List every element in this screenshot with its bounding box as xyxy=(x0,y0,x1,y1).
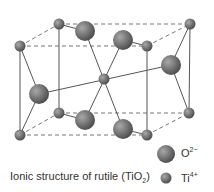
o-atom xyxy=(113,119,133,139)
o-atom xyxy=(161,55,181,75)
rutile-unit-cell-diagram xyxy=(0,0,214,192)
legend-o-icon xyxy=(157,145,175,163)
ti-atom xyxy=(142,41,153,52)
atoms xyxy=(15,19,196,184)
o-atom xyxy=(113,30,133,50)
ti-atom xyxy=(54,108,65,119)
figure-caption: Ionic structure of rutile (TiO2) xyxy=(10,170,150,184)
ti-atom xyxy=(15,41,26,52)
ti-atom xyxy=(185,19,196,30)
legend-oxygen-label: O2− xyxy=(181,146,198,159)
ti-atom-center xyxy=(99,74,110,85)
legend-ti-icon xyxy=(161,173,172,184)
ti-atom xyxy=(184,108,195,119)
legend-titanium-label: Ti4+ xyxy=(181,171,198,184)
o-atom xyxy=(75,110,95,130)
o-atom xyxy=(29,84,49,104)
ti-atom xyxy=(142,130,153,141)
ti-atom xyxy=(15,130,26,141)
ti-atom xyxy=(54,19,65,30)
o-atom xyxy=(75,21,95,41)
